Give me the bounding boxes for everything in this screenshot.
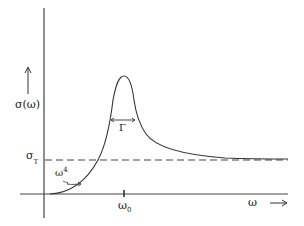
y-axis-arrow-icon [25,67,31,94]
low-freq-symbol: ω [55,167,63,178]
width-label: Γ [119,123,126,133]
threshold-label: σT [26,150,38,161]
low-freq-superscript: 4 [63,166,67,174]
threshold-symbol: σ [26,149,34,162]
x-axis-arrow-icon [270,200,287,206]
cross-section-curve [50,76,288,194]
y-axis-label: σ(ω) [15,99,40,110]
peak-symbol: ω [118,199,127,212]
low-freq-label: ω4 [55,168,68,178]
peak-frequency-label: ω0 [118,200,131,211]
peak-subscript: 0 [127,206,131,214]
resonance-diagram [0,0,304,226]
threshold-subscript: T [34,158,39,166]
x-axis-label: ω [248,197,257,208]
